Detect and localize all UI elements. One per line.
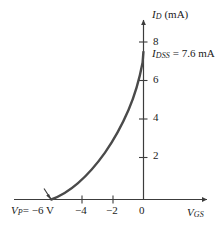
x-tick-label-minus4: −4	[75, 205, 87, 216]
figure-transfer-characteristic: ID (mA) VGS 8 6 4 2 −4 −2 0 IDSS = 7.6 m…	[0, 0, 222, 234]
plot-canvas	[0, 0, 222, 234]
y-tick-label-6: 6	[153, 74, 159, 85]
idss-subscript: DSS	[156, 51, 170, 60]
x-axis-title-subscript: GS	[194, 210, 204, 219]
x-tick-label-zero: 0	[139, 205, 145, 216]
vp-value: = −6 V	[23, 204, 54, 216]
idss-value: = 7.6 mA	[173, 47, 215, 59]
vp-symbol: V	[11, 204, 18, 216]
idss-annotation: IDSS = 7.6 mA	[152, 48, 215, 60]
y-tick-label-4: 4	[153, 112, 159, 123]
y-axis-title: ID (mA)	[152, 9, 188, 21]
vp-pointer	[44, 189, 52, 201]
y-axis-title-subscript: D	[156, 12, 162, 21]
y-tick-label-8: 8	[153, 36, 159, 47]
x-axis-title-symbol: V	[187, 206, 194, 218]
x-axis-title: VGS	[187, 207, 204, 219]
transfer-curve	[51, 52, 143, 200]
vp-annotation: VP= −6 V	[11, 205, 54, 217]
x-tick-label-minus2: −2	[106, 205, 118, 216]
y-axis-title-unit: (mA)	[164, 8, 188, 20]
y-tick-label-2: 2	[153, 150, 159, 161]
